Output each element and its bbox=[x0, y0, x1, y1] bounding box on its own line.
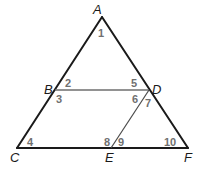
angle-label-4: 4 bbox=[27, 136, 34, 148]
vertex-label-a: A bbox=[92, 2, 102, 17]
angle-label-10: 10 bbox=[164, 136, 176, 148]
angle-label-9: 9 bbox=[118, 136, 124, 148]
angle-label-3: 3 bbox=[56, 93, 62, 105]
angle-label-2: 2 bbox=[65, 77, 71, 89]
vertex-label-f: F bbox=[184, 150, 193, 165]
angle-label-5: 5 bbox=[131, 77, 137, 89]
angle-label-1: 1 bbox=[98, 27, 104, 39]
angle-label-7: 7 bbox=[145, 97, 151, 109]
triangle-diagram: A B C D E F 1 2 3 4 5 6 7 8 9 10 bbox=[0, 0, 203, 172]
vertex-label-d: D bbox=[152, 82, 161, 97]
vertex-label-e: E bbox=[105, 150, 114, 165]
segment-de bbox=[111, 90, 149, 148]
angle-label-6: 6 bbox=[132, 93, 138, 105]
segment-ac bbox=[17, 17, 102, 148]
angle-label-8: 8 bbox=[104, 136, 110, 148]
segment-af bbox=[102, 17, 188, 148]
vertex-label-b: B bbox=[44, 82, 53, 97]
vertex-label-c: C bbox=[10, 150, 20, 165]
